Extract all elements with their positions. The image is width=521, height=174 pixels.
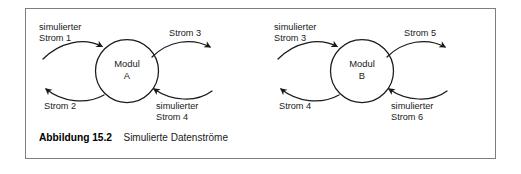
flow-6-label: Strom 4 <box>279 101 311 112</box>
flow-2-label: Strom 2 <box>44 101 76 112</box>
figure-caption: Abbildung 15.2 Simulierte Datenströme <box>39 127 479 145</box>
flow-8-arrow <box>389 89 447 99</box>
flow-2-label-line1: Strom 2 <box>44 101 76 112</box>
module-b-label-line2: B <box>341 70 383 82</box>
flow-8-label-line2: Strom 6 <box>391 112 433 123</box>
flow-7-label-line1: Strom 5 <box>404 28 436 39</box>
figure-caption-number: Abbildung 15.2 <box>39 132 112 143</box>
module-a-label-line1: Modul <box>106 58 148 70</box>
module-a-label-line2: A <box>106 70 148 82</box>
flow-4-arrow <box>154 89 212 99</box>
flow-1-label-line2: Strom 1 <box>39 33 81 44</box>
module-a-label: Modul A <box>106 58 148 81</box>
flow-4-label-line2: Strom 4 <box>156 112 198 123</box>
flow-3-label-line1: Strom 3 <box>169 28 201 39</box>
module-b-label-line1: Modul <box>341 58 383 70</box>
flow-5-label: simulierter Strom 3 <box>274 22 316 45</box>
flow-6-label-line1: Strom 4 <box>279 101 311 112</box>
flow-5-label-line2: Strom 3 <box>274 33 316 44</box>
flow-6-arrow <box>281 89 339 101</box>
figure-screenshot: Modul A Modul B simulierter Strom 1 Stro… <box>0 0 521 174</box>
flow-1-label-line1: simulierter <box>39 22 81 33</box>
flow-8-label: simulierter Strom 6 <box>391 101 433 124</box>
flow-1-label: simulierter Strom 1 <box>39 22 81 45</box>
flow-5-label-line1: simulierter <box>274 22 316 33</box>
flow-3-label: Strom 3 <box>169 28 201 39</box>
flow-4-label: simulierter Strom 4 <box>156 101 198 124</box>
flow-8-label-line1: simulierter <box>391 101 433 112</box>
flow-2-arrow <box>46 89 104 101</box>
figure-caption-text: Simulierte Datenströme <box>123 132 227 143</box>
module-b-label: Modul B <box>341 58 383 81</box>
flow-4-label-line1: simulierter <box>156 101 198 112</box>
flow-7-arrow <box>387 42 445 57</box>
figure-frame: Modul A Modul B simulierter Strom 1 Stro… <box>25 8 496 159</box>
flow-3-arrow <box>152 42 210 57</box>
flow-7-label: Strom 5 <box>404 28 436 39</box>
